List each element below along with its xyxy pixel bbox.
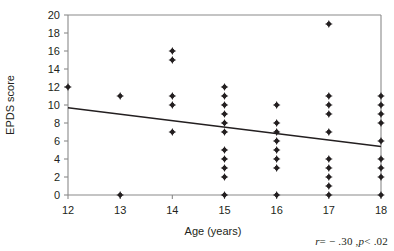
data-point: [325, 182, 333, 190]
scatter-plot-figure: 02468101214161820 12131415161718 EPDS sc…: [0, 0, 394, 251]
data-point: [64, 83, 72, 91]
y-tick-label: 20: [48, 9, 60, 21]
x-tick-label: 15: [218, 204, 230, 216]
data-point: [168, 128, 176, 136]
y-axis-ticks: 02468101214161820: [48, 9, 68, 201]
data-point: [377, 164, 385, 172]
data-point: [168, 101, 176, 109]
data-point: [273, 119, 281, 127]
data-point: [325, 110, 333, 118]
data-point: [273, 191, 281, 199]
x-tick-label: 16: [271, 204, 283, 216]
x-tick-label: 12: [62, 204, 74, 216]
data-point: [377, 173, 385, 181]
y-tick-label: 0: [54, 189, 60, 201]
chart-canvas: 02468101214161820 12131415161718 EPDS sc…: [0, 0, 394, 251]
data-point: [325, 164, 333, 172]
data-point: [325, 128, 333, 136]
statistics-annotation: r= − .30 ,p< .02: [315, 235, 388, 247]
y-tick-label: 12: [48, 81, 60, 93]
data-point: [377, 137, 385, 145]
y-tick-label: 16: [48, 45, 60, 57]
y-tick-label: 8: [54, 117, 60, 129]
data-points-group: [64, 20, 385, 199]
data-point: [168, 47, 176, 55]
data-point: [273, 128, 281, 136]
data-point: [273, 155, 281, 163]
data-point: [325, 155, 333, 163]
data-point: [325, 20, 333, 28]
y-tick-label: 18: [48, 27, 60, 39]
data-point: [221, 155, 229, 163]
data-point: [168, 92, 176, 100]
data-point: [221, 101, 229, 109]
x-tick-label: 14: [166, 204, 178, 216]
data-point: [116, 92, 124, 100]
x-tick-label: 17: [323, 204, 335, 216]
data-point: [221, 191, 229, 199]
data-point: [377, 191, 385, 199]
data-point: [273, 101, 281, 109]
data-point: [325, 101, 333, 109]
data-point: [116, 191, 124, 199]
x-axis-title: Age (years): [185, 225, 242, 237]
y-tick-label: 10: [48, 99, 60, 111]
y-tick-label: 4: [54, 153, 60, 165]
data-point: [273, 164, 281, 172]
data-point: [221, 92, 229, 100]
data-point: [377, 92, 385, 100]
data-point: [221, 110, 229, 118]
y-axis-title: EPDS score: [4, 75, 16, 135]
x-tick-label: 18: [375, 204, 387, 216]
data-point: [221, 119, 229, 127]
pvalue-value: < .02: [364, 235, 388, 247]
data-point: [221, 83, 229, 91]
correlation-value: = − .30 ,: [320, 235, 359, 247]
data-point: [273, 137, 281, 145]
data-point: [377, 110, 385, 118]
data-point: [221, 164, 229, 172]
data-point: [221, 146, 229, 154]
data-point: [377, 119, 385, 127]
data-point: [168, 56, 176, 64]
y-tick-label: 2: [54, 171, 60, 183]
data-point: [325, 191, 333, 199]
data-point: [377, 155, 385, 163]
data-point: [273, 146, 281, 154]
data-point: [221, 128, 229, 136]
y-tick-label: 14: [48, 63, 60, 75]
data-point: [221, 173, 229, 181]
data-point: [325, 173, 333, 181]
data-point: [377, 101, 385, 109]
data-point: [325, 92, 333, 100]
x-tick-label: 13: [114, 204, 126, 216]
y-tick-label: 6: [54, 135, 60, 147]
